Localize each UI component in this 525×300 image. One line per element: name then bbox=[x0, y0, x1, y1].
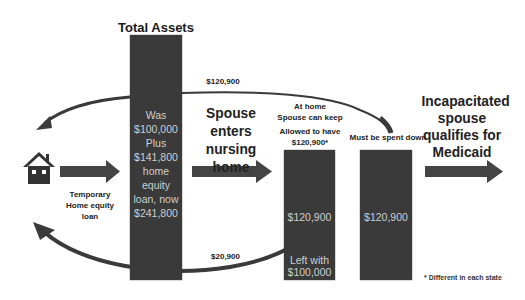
spend-down-label: Must be spent down bbox=[348, 132, 428, 143]
upper-arc-label: $120,900 bbox=[198, 76, 248, 87]
arrow-medicaid bbox=[425, 160, 503, 183]
total-assets-bar: Was $100,000 Plus $141,800 home equity l… bbox=[130, 35, 182, 280]
total-assets-text: Was $100,000 Plus $141,800 home equity l… bbox=[130, 108, 182, 220]
at-home-label: At home Spouse can keep Allowed to have … bbox=[274, 101, 346, 148]
loan-label: Temporary Home equity loan bbox=[62, 189, 118, 222]
spouse-enters-label: Spouse enters nursing home bbox=[191, 104, 270, 176]
lower-arc-label: $20,900 bbox=[203, 251, 248, 262]
upper-arc-arrow bbox=[45, 97, 130, 123]
total-assets-title: Total Assets bbox=[118, 20, 194, 35]
spend-bar: $120,900 bbox=[360, 150, 412, 280]
medicaid-label: Incapacitated spouse qualifies for Medic… bbox=[422, 92, 503, 160]
arrow-loan bbox=[60, 160, 120, 183]
house-icon bbox=[22, 150, 56, 186]
upper-arc-arrowhead bbox=[36, 116, 52, 130]
footnote: * Different in each state bbox=[424, 274, 514, 281]
keep-bar: $120,900 Left with $100,000 bbox=[284, 150, 335, 280]
